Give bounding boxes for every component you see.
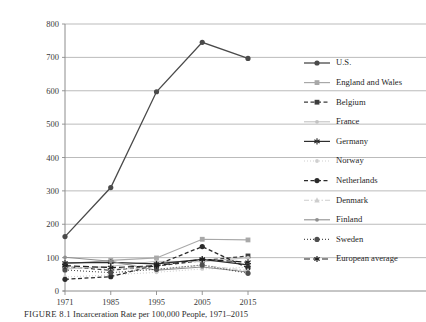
data-point-marker [315,80,320,85]
legend-label: U.S. [336,57,351,67]
data-point-marker [315,120,319,124]
legend-item-england-and-wales[interactable]: England and Wales [304,77,403,87]
legend-item-netherlands[interactable]: Netherlands [304,175,378,185]
legend-item-belgium[interactable]: Belgium [304,97,366,107]
data-point-marker [200,40,205,45]
data-point-marker [62,277,67,282]
legend-item-finland[interactable]: Finland [304,214,363,224]
figure-container: 0100200300400500600700800 19711985199520… [0,0,426,322]
y-axis-tick-labels: 0100200300400500600700800 [46,19,65,296]
legend-item-norway[interactable]: Norway [304,155,364,165]
y-axis-tick-label: 700 [46,52,59,62]
figure-caption-text: Incarceration Rate per 100,000 People, 1… [73,309,248,319]
data-point-marker [200,244,205,249]
data-point-marker [108,185,113,190]
legend-item-denmark[interactable]: Denmark [304,195,369,205]
legend-label: Sweden [336,234,364,244]
data-point-marker [315,218,319,222]
chart-legend: U.S.England and WalesBelgiumFranceGerman… [304,57,403,263]
data-point-marker [108,270,113,275]
data-point-marker [62,234,67,239]
legend-label: Netherlands [336,175,378,185]
data-point-marker [315,100,320,105]
y-axis-tick-label: 300 [46,186,59,196]
data-series-group [62,40,250,282]
legend-label: Norway [336,155,364,165]
y-axis-tick-label: 500 [46,119,59,129]
data-point-marker [245,56,250,61]
legend-label: England and Wales [336,77,403,87]
x-axis-tick-label: 1971 [57,297,74,307]
data-point-marker [314,237,319,242]
legend-label: Finland [336,214,363,224]
figure-caption: FIGURE 8.1 Incarceration Rate per 100,00… [24,309,426,320]
legend-label: Denmark [336,195,369,205]
data-point-marker [154,89,159,94]
data-point-marker [314,178,319,183]
data-point-marker [246,238,251,243]
x-axis-tick-labels: 19711985199520052015 [57,291,257,307]
y-axis-tick-label: 100 [46,253,59,263]
data-point-marker [109,259,113,263]
legend-item-european-average[interactable]: European average [304,253,398,263]
y-axis-tick-label: 600 [46,86,59,96]
data-point-marker [63,255,67,259]
x-axis-tick-label: 2005 [194,297,211,307]
y-axis-tick-label: 800 [46,19,59,29]
legend-item-france[interactable]: France [304,116,360,126]
legend-label: Germany [336,136,369,146]
data-point-marker [245,271,250,276]
data-point-marker [246,256,250,260]
legend-label: European average [336,253,398,263]
y-axis-tick-label: 0 [55,286,59,296]
data-point-marker [315,159,319,163]
series-u-s [62,40,250,239]
legend-label: Belgium [336,97,366,107]
legend-item-sweden[interactable]: Sweden [304,234,364,244]
figure-number: FIGURE 8.1 [24,309,71,319]
series-line [65,42,248,236]
data-point-marker [200,262,205,267]
incarceration-rate-line-chart: 0100200300400500600700800 19711985199520… [0,0,426,322]
legend-item-u-s[interactable]: U.S. [304,57,351,67]
legend-label: France [336,116,360,126]
legend-item-germany[interactable]: Germany [304,136,369,146]
y-axis-tick-label: 200 [46,219,59,229]
y-axis-tick-label: 400 [46,153,59,163]
data-point-marker [314,60,319,65]
data-point-marker [200,237,205,242]
x-axis-tick-label: 1985 [102,297,119,307]
x-axis-tick-label: 1995 [148,297,165,307]
x-axis-tick-label: 2015 [240,297,257,307]
